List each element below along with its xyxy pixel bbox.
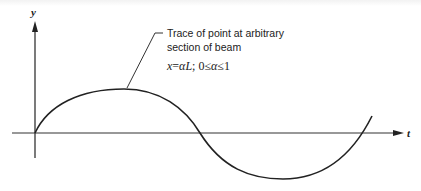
annotation-line-1: Trace of point at arbitrary (167, 27, 285, 39)
annotation-formula: x=αL; 0≤α≤1 (166, 59, 230, 73)
t-axis-label: t (407, 127, 411, 139)
y-axis-arrow-icon (32, 21, 38, 32)
trace-curve (35, 89, 372, 179)
formula-end: ≤1 (217, 59, 230, 73)
y-axis-label: y (29, 6, 36, 18)
t-axis-arrow-icon (393, 130, 404, 136)
annotation-line-2: section of beam (167, 41, 241, 53)
beam-trace-diagram: y t Trace of point at arbitrary section … (0, 0, 421, 191)
formula-alpha-l: αL (179, 59, 192, 73)
leader-line (127, 33, 163, 88)
formula-sep: ; 0≤ (192, 59, 211, 73)
